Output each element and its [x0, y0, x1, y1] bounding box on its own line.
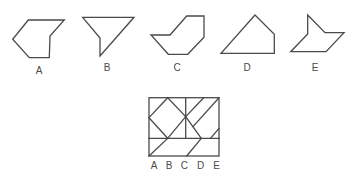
- option-shapes: A B C D E: [13, 15, 344, 76]
- option-c: C: [151, 16, 204, 73]
- puzzle-figure: A B C D E ABCDE: [0, 0, 357, 172]
- composite-label-a: A: [151, 160, 158, 171]
- composite-label-e: E: [213, 160, 220, 171]
- shape-a: [13, 20, 65, 58]
- composite-line: [149, 118, 168, 139]
- shape-e: [291, 15, 344, 52]
- option-e: E: [291, 15, 344, 73]
- composite-line: [149, 138, 168, 156]
- composite-labels: ABCDE: [151, 160, 221, 171]
- composite-lines: [149, 98, 219, 156]
- composite-line: [193, 98, 219, 127]
- label-a: A: [36, 65, 43, 76]
- shape-c: [151, 16, 204, 54]
- label-c: C: [173, 62, 180, 73]
- option-d: D: [221, 15, 274, 73]
- composite-line: [211, 128, 220, 138]
- composite-line: [168, 98, 186, 117]
- shape-d: [221, 15, 274, 53]
- composite-line: [149, 98, 168, 118]
- composite-line: [186, 98, 204, 117]
- option-b: B: [83, 17, 134, 73]
- composite-line: [187, 138, 202, 156]
- composite-label-c: C: [181, 160, 188, 171]
- label-b: B: [104, 62, 111, 73]
- composite-label-d: D: [197, 160, 204, 171]
- composite-line: [168, 117, 186, 139]
- composite-label-b: B: [166, 160, 173, 171]
- label-e: E: [312, 62, 319, 73]
- shape-b: [83, 17, 134, 56]
- label-d: D: [243, 62, 250, 73]
- option-a: A: [13, 20, 65, 76]
- composite-figure: ABCDE: [149, 98, 220, 171]
